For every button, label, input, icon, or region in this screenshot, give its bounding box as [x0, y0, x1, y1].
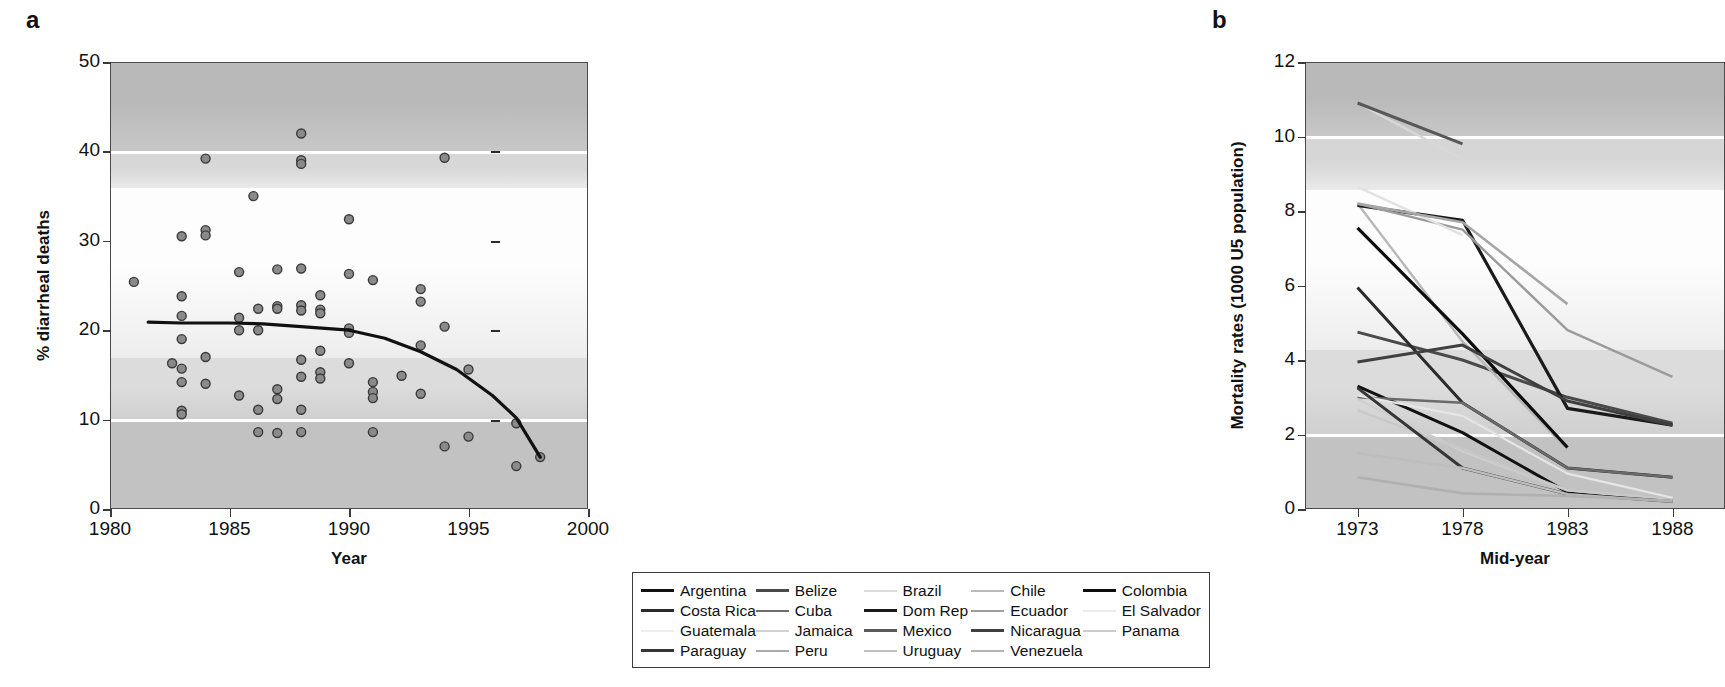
legend-item[interactable]: Argentina	[641, 582, 756, 599]
legend-color-swatch	[756, 589, 789, 592]
y-tick-label: 20	[58, 318, 100, 340]
legend-item[interactable]: Paraguay	[641, 642, 756, 659]
scatter-point	[316, 346, 325, 355]
scatter-point	[297, 264, 306, 273]
y-tick-label: 40	[58, 139, 100, 161]
series-line	[1358, 103, 1463, 144]
legend-label: Colombia	[1122, 582, 1187, 599]
y-tick-label: 50	[58, 50, 100, 72]
scatter-point	[235, 313, 244, 322]
x-tick-mark	[1673, 509, 1675, 517]
scatter-point	[297, 355, 306, 364]
legend-item[interactable]: Jamaica	[756, 622, 864, 639]
scatter-point	[440, 442, 449, 451]
scatter-point	[297, 405, 306, 414]
legend-label: Mexico	[903, 622, 952, 639]
scatter-point	[235, 391, 244, 400]
legend-item[interactable]: Venezuela	[971, 642, 1082, 659]
legend-item[interactable]: Cuba	[756, 602, 864, 619]
series-legend: ArgentinaBelizeBrazilChileColombiaCosta …	[632, 572, 1210, 668]
y-tick-mark	[1298, 137, 1306, 139]
legend-item[interactable]: Mexico	[864, 622, 972, 639]
y-tick-mark	[1298, 286, 1306, 288]
legend-color-swatch	[1083, 610, 1116, 612]
legend-label: Argentina	[680, 582, 746, 599]
legend-item[interactable]: Guatemala	[641, 622, 756, 639]
legend-color-swatch	[641, 649, 674, 652]
y-tick-label: 10	[1253, 125, 1295, 147]
x-tick-label: 1980	[70, 518, 150, 540]
y-tick-mark	[1298, 509, 1306, 511]
scatter-point	[201, 379, 210, 388]
x-tick-mark	[588, 509, 590, 517]
y-tick-label: 10	[58, 408, 100, 430]
scatter-point	[249, 192, 258, 201]
legend-color-swatch	[641, 589, 674, 592]
scatter-point	[368, 276, 377, 285]
legend-item[interactable]: Colombia	[1083, 582, 1201, 599]
legend-label: Cuba	[795, 602, 832, 619]
scatter-point	[254, 405, 263, 414]
scatter-point	[177, 292, 186, 301]
legend-item[interactable]: Costa Rica	[641, 602, 756, 619]
legend-item[interactable]: Uruguay	[864, 642, 972, 659]
y-tick-mark	[103, 151, 111, 153]
y-tick-mark	[1298, 211, 1306, 213]
scatter-point	[129, 277, 138, 286]
scatter-point	[345, 215, 354, 224]
legend-item[interactable]: Belize	[756, 582, 864, 599]
legend-label: Guatemala	[680, 622, 756, 639]
legend-color-swatch	[756, 630, 789, 632]
x-tick-mark	[1463, 509, 1465, 517]
scatter-point	[177, 410, 186, 419]
scatter-point	[464, 432, 473, 441]
scatter-point	[201, 231, 210, 240]
legend-label: Ecuador	[1010, 602, 1068, 619]
legend-item[interactable]: Nicaragua	[971, 622, 1082, 639]
series-line	[1358, 397, 1673, 477]
y-tick-mark	[103, 62, 111, 64]
x-tick-label: 1985	[190, 518, 270, 540]
legend-label: Dom Rep	[903, 602, 968, 619]
legend-item[interactable]: Dom Rep	[864, 602, 972, 619]
scatter-point	[416, 341, 425, 350]
legend-item[interactable]: Peru	[756, 642, 864, 659]
series-line	[1358, 187, 1463, 235]
scatter-point	[512, 462, 521, 471]
scatter-point	[273, 304, 282, 313]
y-tick-label: 0	[1253, 497, 1295, 519]
y-tick-mark	[1298, 360, 1306, 362]
series-line	[1358, 332, 1673, 423]
legend-item[interactable]: Panama	[1083, 622, 1201, 639]
legend-label: Jamaica	[795, 622, 853, 639]
scatter-point	[168, 359, 177, 368]
scatter-point	[254, 304, 263, 313]
y-tick-mark	[1298, 435, 1306, 437]
scatter-point	[316, 374, 325, 383]
scatter-point	[368, 378, 377, 387]
scatter-point	[416, 389, 425, 398]
legend-label: Paraguay	[680, 642, 746, 659]
legend-item[interactable]: El Salvador	[1083, 602, 1201, 619]
y-tick-mark	[103, 330, 111, 332]
x-tick-label: 1988	[1633, 518, 1713, 540]
panel-a-x-axis-label: Year	[110, 549, 588, 569]
scatter-point	[273, 265, 282, 274]
y-tick-mark	[103, 420, 111, 422]
y-tick-mark	[1298, 62, 1306, 64]
legend-color-swatch	[1083, 589, 1116, 592]
legend-item[interactable]: Ecuador	[971, 602, 1082, 619]
panel-b-x-axis-label: Mid-year	[1305, 549, 1725, 569]
scatter-point	[273, 395, 282, 404]
x-tick-label: 1990	[309, 518, 389, 540]
scatter-point	[177, 364, 186, 373]
x-tick-label: 1983	[1528, 518, 1608, 540]
legend-label: Venezuela	[1010, 642, 1082, 659]
scatter-point	[235, 326, 244, 335]
legend-label: Nicaragua	[1010, 622, 1081, 639]
legend-item[interactable]: Brazil	[864, 582, 972, 599]
legend-item[interactable]: Chile	[971, 582, 1082, 599]
scatter-point	[254, 326, 263, 335]
y-tick-label: 30	[58, 229, 100, 251]
y-tick-label: 2	[1253, 423, 1295, 445]
